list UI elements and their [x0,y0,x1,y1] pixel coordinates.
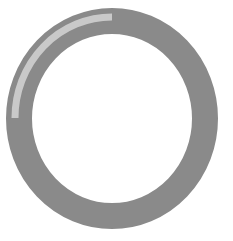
loading-spinner: Loading [0,0,233,241]
spinner-track [19,21,205,216]
spinner-ring-icon [0,0,233,241]
